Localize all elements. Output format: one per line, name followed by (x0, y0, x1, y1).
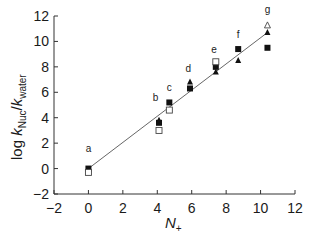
point-label-a: a (86, 143, 92, 154)
fit-line (88, 33, 267, 169)
x-tick-label: −2 (46, 200, 62, 216)
point-labels: abcdefg (86, 4, 271, 154)
scatter-chart: −2024681012−2024681012 abcdefg N+ log kN… (0, 0, 314, 246)
x-axis-title: N+ (165, 214, 182, 234)
data-points (85, 22, 270, 175)
filled-square-marker (166, 99, 172, 105)
x-tick-label: 6 (188, 200, 196, 216)
open-triangle-marker (264, 22, 270, 28)
open-square-marker (156, 127, 162, 133)
x-tick-label: 12 (287, 200, 303, 216)
filled-triangle-marker (156, 117, 162, 123)
x-tick-label: 4 (153, 200, 161, 216)
point-label-c: c (167, 82, 172, 93)
point-label-f: f (237, 29, 240, 40)
y-tick-label: 2 (41, 135, 49, 151)
x-tick-label: 2 (119, 200, 127, 216)
y-tick-label: 0 (41, 161, 49, 177)
x-tick-label: 10 (253, 200, 269, 216)
y-tick-label: −2 (33, 186, 49, 202)
filled-triangle-marker (235, 57, 241, 63)
x-tick-label: 8 (222, 200, 230, 216)
filled-square-marker (187, 85, 193, 91)
filled-triangle-marker (264, 29, 270, 35)
y-tick-label: 12 (33, 8, 49, 24)
y-tick-label: 6 (41, 84, 49, 100)
x-tick-label: 0 (85, 200, 93, 216)
open-square-marker (213, 59, 219, 65)
filled-square-marker (235, 46, 241, 52)
point-label-b: b (153, 92, 159, 103)
filled-triangle-marker (187, 79, 193, 85)
y-axis-title: log kNuc/kwater (8, 74, 28, 160)
point-label-g: g (265, 4, 271, 15)
y-tick-label: 10 (33, 33, 49, 49)
filled-square-marker (264, 45, 270, 51)
open-square-marker (85, 169, 91, 175)
point-label-e: e (211, 44, 217, 55)
open-square-marker (166, 107, 172, 113)
y-tick-label: 8 (41, 59, 49, 75)
y-tick-label: 4 (41, 110, 49, 126)
point-label-d: d (185, 63, 191, 74)
